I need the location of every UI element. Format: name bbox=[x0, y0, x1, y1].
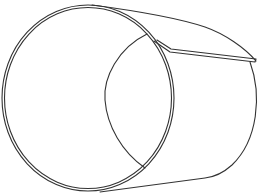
inner-back-edge bbox=[105, 34, 147, 168]
right-silhouette bbox=[100, 62, 256, 192]
seam-flap bbox=[154, 40, 256, 62]
rolled-cylinder-drawing bbox=[0, 0, 261, 193]
front-rim-outer bbox=[2, 5, 174, 191]
illustration-canvas: Line drawing of a rolled metal sheet for… bbox=[0, 0, 261, 193]
